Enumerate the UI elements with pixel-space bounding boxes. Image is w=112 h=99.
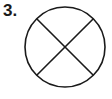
circle-x-diagram (0, 0, 112, 99)
